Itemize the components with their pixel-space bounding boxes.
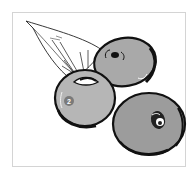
- blueberries-illustration: 2: [0, 0, 195, 178]
- berry-left: [55, 70, 115, 127]
- marker-label: 2: [67, 98, 71, 105]
- berry-right: [113, 93, 185, 155]
- marker-badge: 2: [64, 96, 74, 106]
